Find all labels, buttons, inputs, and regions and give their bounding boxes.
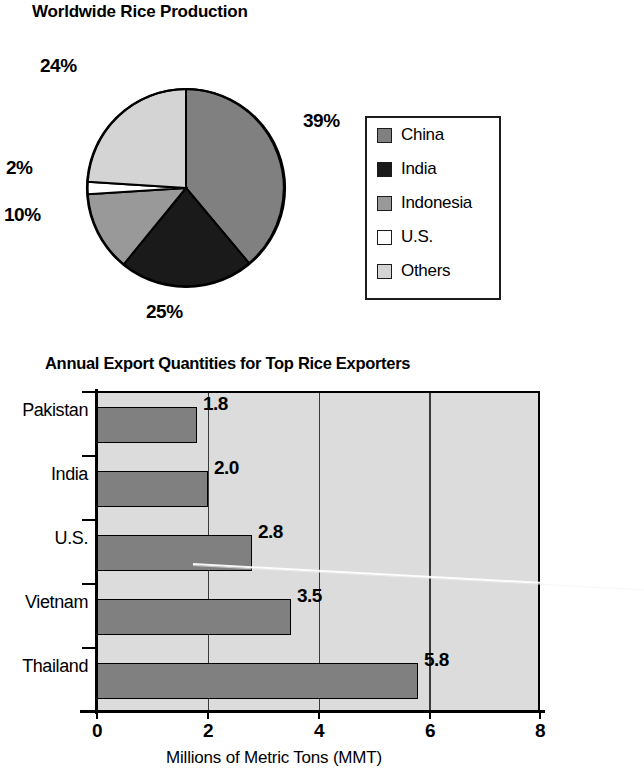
pie-label-others: 24% — [40, 55, 77, 77]
legend-swatch-others — [377, 264, 392, 279]
bar-chart-title: Annual Export Quantities for Top Rice Ex… — [45, 354, 565, 373]
pie-label-india: 25% — [146, 301, 183, 323]
y-axis-line — [95, 389, 98, 714]
legend-item-us: U.S. — [367, 220, 499, 254]
legend-label-china: China — [401, 125, 444, 145]
bar-chart-figure: Annual Export Quantities for Top Rice Ex… — [0, 345, 548, 775]
legend-item-others: Others — [367, 254, 499, 288]
bar-value-india: 2.0 — [214, 457, 239, 479]
legend-swatch-indonesia — [377, 196, 392, 211]
bar-us — [97, 535, 252, 571]
x-axis-line — [80, 710, 545, 713]
legend-label-us: U.S. — [401, 227, 433, 247]
x-tick-label-8: 8 — [535, 720, 545, 742]
x-axis-title: Millions of Metric Tons (MMT) — [0, 748, 548, 768]
x-tick-6 — [429, 710, 431, 719]
bar-plot-area — [97, 391, 540, 710]
x-tick-4 — [318, 710, 320, 719]
x-tick-2 — [207, 710, 209, 719]
legend-swatch-china — [377, 128, 392, 143]
bar-value-pakistan: 1.8 — [203, 393, 228, 415]
x-tick-label-2: 2 — [203, 720, 213, 742]
pie-chart-graphic — [85, 87, 287, 289]
pie-svg — [85, 87, 287, 289]
y-tick-2 — [82, 519, 96, 521]
bar-value-thailand: 5.8 — [424, 649, 449, 671]
pie-label-us: 2% — [6, 157, 32, 179]
legend-label-india: India — [401, 159, 436, 179]
bar-india — [97, 471, 208, 507]
x-tick-label-0: 0 — [92, 720, 102, 742]
legend-item-indonesia: Indonesia — [367, 186, 499, 220]
pie-label-indonesia: 10% — [4, 204, 41, 226]
y-tick-4 — [82, 647, 96, 649]
category-label-thailand: Thailand — [0, 656, 88, 677]
y-tick-1 — [82, 455, 96, 457]
category-label-us: U.S. — [0, 528, 88, 549]
x-tick-8 — [539, 710, 541, 719]
bar-value-us: 2.8 — [258, 521, 283, 543]
x-tick-label-4: 4 — [314, 720, 324, 742]
pie-legend: China India Indonesia U.S. Others — [365, 116, 501, 300]
scan-crease-artifact-soft — [193, 565, 644, 590]
x-tick-0 — [96, 710, 98, 719]
x-tick-label-6: 6 — [425, 720, 435, 742]
bar-vietnam — [97, 599, 291, 635]
bar-value-vietnam: 3.5 — [297, 585, 322, 607]
bar-pakistan — [97, 407, 197, 443]
legend-swatch-india — [377, 162, 392, 177]
y-tick-0 — [82, 391, 96, 393]
legend-item-india: India — [367, 152, 499, 186]
legend-swatch-us — [377, 230, 392, 245]
category-label-pakistan: Pakistan — [0, 400, 88, 421]
pie-label-china: 39% — [303, 110, 340, 132]
scan-crease-artifact — [193, 563, 644, 589]
category-label-india: India — [0, 464, 88, 485]
y-tick-3 — [82, 583, 96, 585]
pie-chart-figure: Worldwide Rice Production 39% 25% 10% 2%… — [0, 0, 548, 345]
legend-label-others: Others — [401, 261, 450, 281]
legend-label-indonesia: Indonesia — [401, 193, 472, 213]
legend-item-china: China — [367, 118, 499, 152]
category-label-vietnam: Vietnam — [0, 592, 88, 613]
bar-thailand — [97, 663, 418, 699]
pie-slice-others — [88, 89, 186, 188]
pie-chart-title: Worldwide Rice Production — [32, 2, 332, 22]
